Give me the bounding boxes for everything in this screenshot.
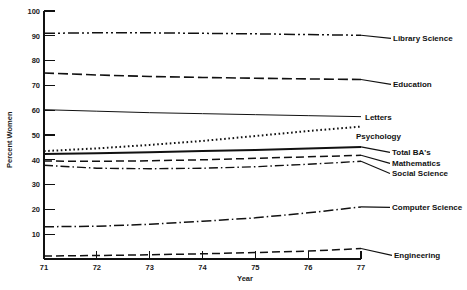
series-label-total-ba-s: Total BA's — [392, 148, 431, 157]
line-chart-canvas: 102030405060708090100 Percent Women 7172… — [0, 0, 467, 290]
series-leader-group — [361, 35, 392, 255]
leader-social-science — [361, 161, 390, 173]
y-tick-label-60: 60 — [32, 106, 40, 115]
x-tick-group — [97, 251, 361, 259]
x-tick-label-group: 71727374757677 — [40, 263, 365, 272]
series-line-education — [44, 73, 361, 79]
leader-mathematics — [361, 155, 390, 163]
series-label-social-science: Social Science — [392, 169, 449, 178]
y-tick-label-40: 40 — [32, 156, 40, 165]
leader-engineering — [361, 249, 392, 256]
x-tick-label-71: 71 — [40, 263, 48, 272]
series-label-computer-science: Computer Science — [392, 203, 463, 212]
y-tick-label-30: 30 — [32, 180, 40, 189]
series-line-library-science — [44, 33, 361, 35]
series-label-engineering: Engineering — [394, 251, 440, 260]
series-line-mathematics — [44, 155, 361, 161]
leader-library-science — [361, 35, 391, 38]
series-line-group — [44, 33, 361, 256]
series-line-letters — [44, 110, 361, 117]
x-tick-label-74: 74 — [198, 263, 207, 272]
y-tick-label-10: 10 — [32, 230, 40, 239]
x-tick-label-73: 73 — [145, 263, 153, 272]
series-label-group: Library ScienceEducationLettersPsycholog… — [356, 34, 463, 260]
series-line-computer-science — [44, 207, 361, 227]
x-tick-label-72: 72 — [93, 263, 101, 272]
series-label-library-science: Library Science — [393, 34, 453, 43]
x-tick-label-76: 76 — [304, 263, 312, 272]
series-label-education: Education — [393, 80, 432, 89]
y-tick-label-group: 102030405060708090100 — [27, 7, 40, 239]
series-label-letters: Letters — [365, 113, 392, 122]
x-tick-label-75: 75 — [251, 263, 259, 272]
series-label-mathematics: Mathematics — [392, 159, 441, 168]
y-tick-label-20: 20 — [32, 205, 40, 214]
y-tick-label-100: 100 — [27, 7, 40, 16]
y-tick-label-50: 50 — [32, 131, 40, 140]
x-axis-title: Year — [237, 274, 253, 283]
series-label-psychology: Psychology — [356, 132, 401, 141]
leader-total-ba-s — [361, 147, 390, 153]
y-axis: 102030405060708090100 Percent Women — [5, 7, 55, 259]
y-tick-label-70: 70 — [32, 81, 40, 90]
x-tick-label-77: 77 — [357, 263, 365, 272]
leader-education — [361, 79, 391, 84]
y-tick-label-80: 80 — [32, 56, 40, 65]
series-line-social-science — [44, 161, 361, 168]
x-axis: 71727374757677 Year — [40, 251, 365, 283]
y-axis-title: Percent Women — [5, 111, 14, 168]
y-tick-group — [44, 11, 55, 259]
y-tick-label-90: 90 — [32, 32, 40, 41]
chart-figure: 102030405060708090100 Percent Women 7172… — [0, 0, 467, 290]
